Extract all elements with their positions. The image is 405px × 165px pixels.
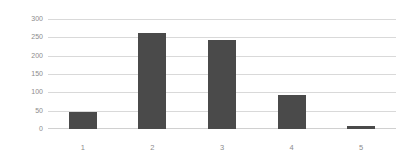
- x-tick-slot: 4: [257, 136, 327, 154]
- bar-slot: [48, 19, 118, 129]
- y-tick-label: 250: [31, 33, 43, 41]
- bar-chart: 300 250 200 150 100 50 0: [0, 0, 405, 165]
- x-tick-label: 1: [81, 143, 85, 152]
- x-tick-slot: 2: [118, 136, 188, 154]
- bar-slot: [326, 19, 396, 129]
- x-axis: 1 2 3 4 5: [48, 136, 396, 154]
- bar-slot: [257, 19, 327, 129]
- x-tick-slot: 1: [48, 136, 118, 154]
- bar[interactable]: [347, 126, 375, 129]
- y-tick-label: 200: [31, 52, 43, 60]
- bar[interactable]: [138, 33, 166, 129]
- y-tick-label: 50: [35, 107, 43, 115]
- bar[interactable]: [69, 112, 97, 129]
- y-tick-label: 100: [31, 88, 43, 96]
- y-tick-label: 0: [39, 125, 43, 133]
- bar[interactable]: [208, 40, 236, 129]
- x-tick-slot: 5: [326, 136, 396, 154]
- bars-layer: [48, 19, 396, 129]
- y-tick-label: 150: [31, 70, 43, 78]
- y-tick-label: 300: [31, 15, 43, 23]
- x-tick-label: 5: [359, 143, 363, 152]
- y-axis: 300 250 200 150 100 50 0: [0, 19, 43, 129]
- bar-slot: [187, 19, 257, 129]
- bar-slot: [118, 19, 188, 129]
- x-tick-slot: 3: [187, 136, 257, 154]
- x-tick-label: 4: [289, 143, 293, 152]
- x-tick-label: 3: [220, 143, 224, 152]
- bar[interactable]: [278, 95, 306, 129]
- x-tick-label: 2: [150, 143, 154, 152]
